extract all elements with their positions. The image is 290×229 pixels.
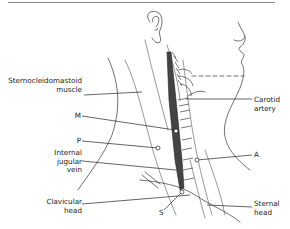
leader-scm: [84, 92, 142, 95]
label-carotid-artery: Carotid artery: [254, 96, 280, 113]
label-scm-line2: muscle: [8, 86, 82, 95]
leader-a: [197, 155, 252, 160]
clavicle: [140, 180, 240, 222]
label-p: P: [70, 137, 81, 146]
label-sternal-line2: head: [254, 209, 280, 218]
label-m: M: [70, 112, 81, 121]
leader-p: [82, 141, 158, 148]
leader-ijv: [82, 161, 176, 170]
point-s: [180, 190, 184, 194]
label-s: S: [159, 209, 164, 218]
label-a: A: [254, 151, 259, 160]
point-p: [156, 146, 160, 150]
label-carotid-line2: artery: [254, 105, 280, 114]
neck-anatomy-illustration: [0, 0, 290, 229]
posterior-neck-line: [78, 58, 118, 190]
label-ijv-line3: vein: [30, 166, 82, 175]
point-a: [195, 158, 199, 162]
label-clavicular-head: Clavicular head: [30, 198, 82, 215]
face-profile: [224, 22, 250, 170]
label-sternocleidomastoid: Sternocleidomastoid muscle: [8, 77, 82, 94]
leader-m: [82, 116, 175, 130]
label-internal-jugular-vein: Internal jugular vein: [30, 149, 82, 175]
point-m: [174, 129, 178, 133]
leader-clavicular: [82, 195, 190, 204]
label-clavicular-line2: head: [30, 207, 82, 216]
label-sternal-head: Sternal head: [254, 200, 280, 217]
